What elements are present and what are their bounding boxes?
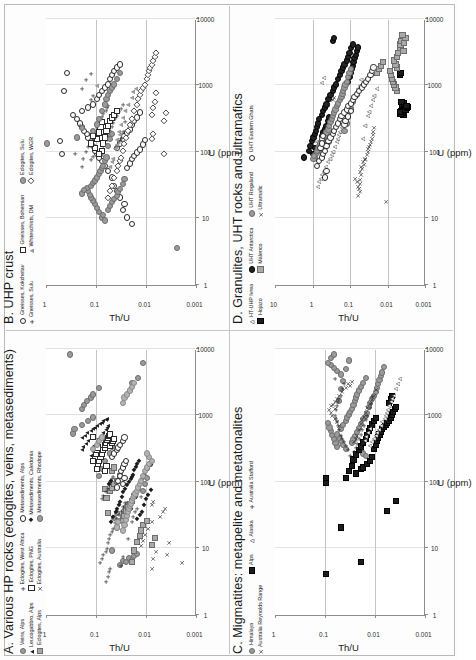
legend-item[interactable]: Veins, Alps xyxy=(19,602,27,654)
data-point xyxy=(319,112,325,118)
data-point xyxy=(81,136,85,140)
data-point xyxy=(328,130,332,134)
legend-item[interactable]: Eclogites, Alps xyxy=(36,602,44,654)
legend-column: Gneisses, BohemianWhiteschists, DM xyxy=(19,195,35,254)
data-point xyxy=(356,88,362,94)
data-point xyxy=(124,483,129,488)
data-point xyxy=(323,123,329,129)
legend-item[interactable]: Himalaya xyxy=(248,585,256,654)
data-point xyxy=(97,131,101,135)
legend-item[interactable]: Metasediments, Alps xyxy=(19,451,27,522)
legend-item[interactable]: Gneisses, Bohemian xyxy=(19,195,27,254)
legend-item[interactable]: UHT Rogaland xyxy=(248,172,256,216)
data-point xyxy=(398,108,404,114)
data-point xyxy=(131,118,137,124)
legend-item[interactable]: Gneisses, Kokchetav xyxy=(19,264,27,324)
data-point xyxy=(109,199,115,205)
legend-item[interactable]: UHT Eastern Ghats xyxy=(248,105,256,161)
data-point xyxy=(128,116,135,123)
data-point xyxy=(150,130,157,137)
legend-item[interactable]: Australia Reynolds Range xyxy=(257,585,265,654)
data-point xyxy=(111,130,115,134)
data-point xyxy=(329,116,335,122)
data-point xyxy=(329,432,335,438)
legend-item[interactable]: Alps xyxy=(248,554,256,573)
legend-item[interactable]: UHT Antarctica xyxy=(248,228,256,273)
panel-A-plot: 11010010001000010.10.010.001U (ppm)Th/U xyxy=(46,350,196,616)
legend-item[interactable]: Alaska xyxy=(248,520,256,543)
data-point xyxy=(135,375,141,381)
data-point xyxy=(114,510,120,516)
data-point xyxy=(360,464,366,470)
data-point xyxy=(123,504,129,510)
data-point xyxy=(81,155,85,159)
data-point xyxy=(333,118,337,122)
y-gridline xyxy=(96,20,97,285)
data-point xyxy=(349,432,353,436)
data-point xyxy=(360,416,366,422)
data-point xyxy=(365,76,371,82)
y-axis-title: Th/U xyxy=(100,312,140,323)
data-point xyxy=(82,444,86,448)
legend-item[interactable]: Australia Stafford xyxy=(248,461,256,509)
legend-item[interactable]: Leucogabbro, Alps xyxy=(28,602,36,654)
legend-item[interactable]: Malenco xyxy=(257,228,265,273)
data-point xyxy=(358,466,364,472)
data-point xyxy=(363,375,369,381)
legend-item[interactable]: Eclogites, Sulu xyxy=(19,137,27,184)
legend-item[interactable]: Gneisses, Sulu xyxy=(28,264,36,324)
data-point xyxy=(121,176,127,182)
legend-item-label: Whiteschists, DM xyxy=(28,205,36,247)
data-point xyxy=(305,140,309,144)
data-point xyxy=(358,402,362,406)
marker-x xyxy=(38,587,42,591)
legend-item[interactable]: Whiteschists, DM xyxy=(28,195,36,254)
data-point xyxy=(397,72,403,78)
y-gridline xyxy=(96,350,97,615)
data-point xyxy=(360,440,364,444)
panel-A-title: A. Various HP rocks (eclogites, veins, m… xyxy=(2,349,16,654)
data-point xyxy=(328,428,332,432)
legend-item[interactable]: Eclogites, Australia xyxy=(36,533,44,592)
data-point xyxy=(92,454,98,460)
x-tick-label: 1000 xyxy=(421,412,449,419)
data-point xyxy=(79,190,85,196)
data-point xyxy=(117,140,123,146)
data-point xyxy=(92,177,98,183)
legend-item[interactable]: Eclogites, West Africa xyxy=(19,533,27,592)
data-point xyxy=(357,431,361,435)
data-point xyxy=(322,104,328,110)
legend-item[interactable]: HT-UHP Ivrea xyxy=(248,284,256,324)
data-point xyxy=(358,406,362,410)
panel-B: B. UHP crust Gneisses, KokchetavGneisses… xyxy=(0,0,228,330)
data-point xyxy=(124,513,130,519)
data-point xyxy=(364,433,368,437)
y-tick-label: 0.001 xyxy=(180,631,210,638)
panel-C-plot: 11010010001000010.10.010.001U (ppm)Th/U xyxy=(275,350,425,616)
data-point xyxy=(100,529,104,533)
data-point xyxy=(127,126,133,132)
data-point xyxy=(356,387,362,393)
data-point xyxy=(401,100,407,106)
data-point xyxy=(343,450,347,454)
legend-item[interactable]: Ultramafic xyxy=(257,172,265,216)
data-point xyxy=(114,524,120,530)
legend-item[interactable]: Eclogites, PNG xyxy=(28,533,36,592)
data-point xyxy=(358,384,364,390)
data-point xyxy=(349,406,355,412)
legend-item-label: Metasediments, Caledonia xyxy=(28,451,36,515)
legend-item[interactable]: Metasediments, Rhodope xyxy=(36,451,44,522)
legend-item[interactable]: Metasediments, Caledonia xyxy=(28,451,36,522)
data-point xyxy=(127,501,133,507)
data-point xyxy=(330,88,336,94)
legend-item[interactable]: Eclogites, WGR xyxy=(28,137,36,184)
data-point xyxy=(170,561,174,565)
data-point xyxy=(334,443,340,449)
data-point xyxy=(381,396,385,400)
data-point xyxy=(125,501,131,507)
data-point xyxy=(124,127,131,134)
y-axis-title: Th/U xyxy=(100,642,140,653)
data-point xyxy=(344,94,348,98)
data-point xyxy=(358,145,362,149)
